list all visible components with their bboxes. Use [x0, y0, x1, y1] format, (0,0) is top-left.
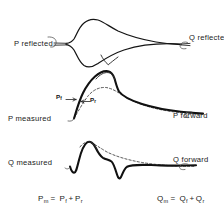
eq-p-term2: P [75, 194, 81, 203]
eq-q-rel: = [171, 194, 176, 203]
wave-separation-figure: P reflected Q reflected P measured P for… [0, 0, 224, 216]
label-pr-sub: r [94, 99, 96, 104]
curve-p-reflected [66, 19, 181, 44]
label-pf-sub: f [60, 96, 62, 101]
label-q-reflected: Q reflected [189, 33, 224, 42]
label-q-measured: Q measured [8, 158, 52, 167]
stub-right-upper [181, 43, 190, 44]
label-p-reflected: P reflected [14, 39, 53, 48]
eq-q-term2-sub: r [202, 198, 204, 204]
label-pr-inline: Pr [90, 96, 96, 103]
equation-pressure: Pm=Pf+Pr [38, 194, 83, 203]
eq-p-term2-sub: r [81, 198, 83, 204]
label-p-forward: P forward [173, 111, 208, 120]
eq-p-rel: = [51, 194, 56, 203]
eq-p-lhs: P [38, 194, 44, 203]
curve-q-reflected [66, 44, 181, 67]
eq-q-lhs: Q [157, 194, 164, 203]
label-p-measured: P measured [8, 114, 51, 123]
eq-p-lhs-sub: m [44, 198, 49, 204]
panel-reflected-curves [48, 19, 190, 67]
eq-q-term1-sub: f [186, 198, 188, 204]
equation-flow: Qm=Qf+Qr [157, 194, 205, 203]
label-pf-inline: Pf [56, 93, 62, 100]
label-q-forward: Q forward [173, 155, 209, 164]
eq-q-plus: + [189, 194, 194, 203]
connector-panel1-panel2-b [109, 57, 119, 65]
eq-p-plus: + [69, 194, 74, 203]
eq-p-term1-sub: f [65, 198, 67, 204]
eq-q-lhs-sub: m [164, 198, 169, 204]
stub-right-lower [181, 45, 190, 46]
